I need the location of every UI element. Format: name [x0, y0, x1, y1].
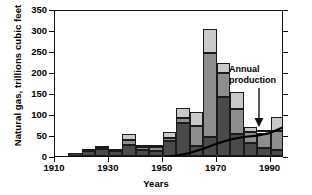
bar-1990	[271, 117, 282, 156]
bar-segment-segment-dark-1960	[190, 146, 203, 156]
bar-segment-segment-dark-1935	[122, 145, 135, 156]
bar-segment-segment-light-1925	[95, 146, 108, 148]
bar-1940	[136, 146, 149, 156]
bar-segment-segment-dark-1915	[68, 153, 81, 156]
bar-segment-segment-medium-1940	[136, 147, 149, 150]
bar-1935	[122, 134, 135, 156]
bar-1975	[230, 92, 243, 156]
x-tick-label-1950: 1950	[145, 163, 179, 173]
bar-segment-segment-dark-1980	[244, 143, 257, 156]
bar-1945	[149, 146, 162, 156]
bar-segment-segment-medium-1975	[230, 109, 243, 133]
bar-1920	[82, 151, 95, 156]
bar-segment-segment-medium-1960	[190, 126, 203, 146]
bar-1915	[68, 153, 81, 156]
bar-segment-segment-light-1980	[244, 127, 257, 132]
bar-segment-segment-medium-1935	[122, 140, 135, 144]
x-tick-label-1970: 1970	[199, 163, 233, 173]
x-axis-title: Years	[0, 178, 312, 189]
chart-figure: Natural gas, trillions cubic feet Years …	[0, 0, 312, 195]
bar-segment-segment-medium-1930	[109, 149, 122, 151]
y-tick-200	[49, 73, 54, 74]
y-tick-right-300	[283, 31, 288, 32]
y-tick-label-350: 350	[20, 5, 47, 15]
bar-1965	[203, 29, 216, 156]
y-tick-label-50: 50	[20, 131, 47, 141]
bar-segment-segment-dark-1920	[82, 151, 95, 156]
x-tick-label-1930: 1930	[91, 163, 125, 173]
y-tick-right-350	[283, 10, 288, 11]
y-tick-100	[49, 115, 54, 116]
y-tick-right-0	[283, 157, 288, 158]
bar-segment-segment-dark-1925	[95, 149, 108, 156]
y-tick-label-100: 100	[20, 110, 47, 120]
y-tick-right-250	[283, 52, 288, 53]
bar-1950	[163, 132, 176, 156]
annotation-line-1: Annual	[229, 64, 260, 74]
annual-production-annotation: Annual production	[229, 64, 276, 86]
bar-segment-segment-light-1935	[122, 134, 135, 141]
bar-segment-segment-medium-1950	[163, 138, 176, 141]
bar-segment-segment-dark-1950	[163, 141, 176, 156]
y-tick-label-200: 200	[20, 68, 47, 78]
y-tick-300	[49, 31, 54, 32]
bar-segment-segment-dark-1955	[176, 123, 189, 156]
y-tick-right-50	[283, 136, 288, 137]
x-tick-label-1910: 1910	[37, 163, 71, 173]
bar-segment-segment-light-1955	[176, 108, 189, 118]
y-tick-250	[49, 52, 54, 53]
y-tick-50	[49, 136, 54, 137]
y-tick-label-150: 150	[20, 89, 47, 99]
bar-segment-segment-medium-1965	[203, 53, 216, 137]
y-tick-350	[49, 10, 54, 11]
bar-segment-segment-dark-1985	[257, 148, 270, 156]
bar-1930	[109, 150, 122, 156]
bar-segment-segment-dark-1970	[217, 97, 230, 156]
annotation-line-2: production	[229, 75, 276, 85]
y-tick-label-300: 300	[20, 26, 47, 36]
bar-segment-segment-light-1990	[271, 117, 282, 131]
bar-segment-segment-dark-1930	[109, 151, 122, 156]
bar-1960	[190, 112, 203, 156]
bar-segment-segment-light-1975	[230, 92, 243, 110]
bar-segment-segment-light-1950	[163, 132, 176, 138]
bar-segment-segment-medium-1980	[244, 132, 257, 143]
bar-segment-segment-dark-1975	[230, 134, 243, 156]
bar-segment-segment-dark-1940	[136, 150, 149, 156]
x-tick-label-1990: 1990	[253, 163, 287, 173]
y-tick-150	[49, 94, 54, 95]
y-tick-label-250: 250	[20, 47, 47, 57]
bar-segment-segment-medium-1920	[82, 149, 95, 151]
bar-segment-segment-dark-1990	[271, 150, 282, 156]
bar-1980	[244, 127, 257, 156]
y-tick-right-200	[283, 73, 288, 74]
bar-segment-segment-light-1965	[203, 29, 216, 53]
bar-segment-segment-medium-1985	[257, 133, 270, 148]
bar-1955	[176, 108, 189, 156]
bar-1925	[95, 148, 108, 156]
y-tick-right-100	[283, 115, 288, 116]
bar-segment-segment-medium-1955	[176, 118, 189, 123]
bar-segment-segment-medium-1990	[271, 131, 282, 150]
bar-segment-segment-medium-1945	[149, 147, 162, 152]
bar-segment-segment-dark-1945	[149, 151, 162, 156]
bar-segment-segment-light-1960	[190, 112, 203, 126]
bar-segment-segment-light-1940	[136, 145, 149, 147]
y-tick-right-150	[283, 94, 288, 95]
bar-segment-segment-light-1985	[257, 130, 270, 132]
bar-segment-segment-dark-1965	[203, 137, 216, 156]
bar-segment-segment-light-1945	[149, 145, 162, 147]
y-tick-label-0: 0	[20, 152, 47, 162]
bar-1985	[257, 132, 270, 156]
